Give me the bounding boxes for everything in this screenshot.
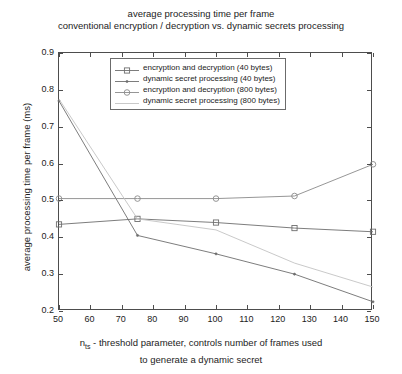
y-axis-tick <box>59 200 63 201</box>
x-axis-tick <box>310 53 311 57</box>
y-axis-tick <box>367 90 371 91</box>
x-axis-tick-label: 60 <box>74 314 104 324</box>
y-axis-tick <box>59 274 63 275</box>
x-axis-tick <box>216 305 217 309</box>
x-axis-tick <box>185 305 186 309</box>
series-marker <box>136 234 138 236</box>
y-axis-title: average processing time per frame (ms) <box>21 57 32 317</box>
y-axis-tick <box>367 274 371 275</box>
y-axis-tick <box>367 53 371 54</box>
x-axis-title-line2: to generate a dynamic secret <box>0 353 402 366</box>
legend-item: dynamic secret processing (800 bytes) <box>114 95 280 106</box>
x-axis-tick-label: 70 <box>106 314 136 324</box>
x-axis-tick-label: 50 <box>43 314 73 324</box>
series-marker <box>293 273 295 275</box>
x-axis-tick <box>342 53 343 57</box>
legend-marker-icon <box>114 95 140 106</box>
legend-item-label: encryption and decryption (40 bytes) <box>143 63 272 72</box>
x-axis-tick-label: 150 <box>357 314 387 324</box>
series-marker <box>370 162 376 168</box>
x-axis-tick <box>59 53 60 57</box>
x-axis-tick <box>122 305 123 309</box>
x-axis-tick <box>90 305 91 309</box>
legend-marker-icon <box>114 62 140 73</box>
x-axis-tick <box>153 53 154 57</box>
x-axis-tick <box>279 305 280 309</box>
y-axis-tick <box>367 200 371 201</box>
x-axis-tick <box>279 53 280 57</box>
chart-subtitle: conventional encryption / decryption vs.… <box>0 20 402 32</box>
x-axis-tick-label: 130 <box>294 314 324 324</box>
x-axis-tick-label: 140 <box>326 314 356 324</box>
x-axis-tick <box>310 305 311 309</box>
x-axis-tick-label: 100 <box>200 314 230 324</box>
x-axis-tick <box>247 53 248 57</box>
y-axis-tick <box>59 127 63 128</box>
series-marker <box>215 253 217 255</box>
legend-item-label: dynamic secret processing (40 bytes) <box>143 74 276 83</box>
x-axis-tick <box>59 305 60 309</box>
series-line <box>59 99 373 287</box>
chart-figure: average processing time per frame conven… <box>0 0 402 374</box>
x-axis-title: nts - threshold parameter, controls numb… <box>0 336 402 366</box>
chart-legend: encryption and decryption (40 bytes)dyna… <box>110 58 286 110</box>
x-axis-tick-label: 80 <box>137 314 167 324</box>
series-marker <box>372 301 374 303</box>
legend-item-label: encryption and decryption (800 bytes) <box>143 85 277 94</box>
legend-item-label: dynamic secret processing (800 bytes) <box>143 96 280 105</box>
data-series <box>59 99 373 287</box>
x-axis-title-text: - threshold parameter, controls number o… <box>90 337 322 348</box>
legend-item: encryption and decryption (40 bytes) <box>114 62 280 73</box>
y-axis-tick <box>59 237 63 238</box>
y-axis-tick <box>367 164 371 165</box>
y-axis-tick <box>59 164 63 165</box>
x-axis-tick-label: 110 <box>231 314 261 324</box>
x-axis-tick <box>342 305 343 309</box>
legend-marker-icon <box>114 84 140 95</box>
y-axis-tick <box>367 311 371 312</box>
x-axis-tick <box>153 305 154 309</box>
x-axis-title-line1: nts - threshold parameter, controls numb… <box>0 336 402 353</box>
y-axis-tick <box>367 127 371 128</box>
chart-title-block: average processing time per frame conven… <box>0 8 402 32</box>
x-axis-tick-label: 120 <box>263 314 293 324</box>
y-axis-tick <box>59 90 63 91</box>
y-axis-tick <box>367 237 371 238</box>
x-axis-tick <box>122 53 123 57</box>
x-axis-tick-label: 90 <box>169 314 199 324</box>
y-axis-tick <box>59 311 63 312</box>
x-axis-tick <box>90 53 91 57</box>
chart-title: average processing time per frame <box>0 8 402 20</box>
legend-marker-icon <box>114 73 140 84</box>
x-axis-tick <box>216 53 217 57</box>
data-series <box>56 216 375 234</box>
x-axis-tick <box>247 305 248 309</box>
y-axis-tick-label: 0.9 <box>20 47 54 57</box>
x-axis-tick <box>185 53 186 57</box>
x-axis-tick <box>373 305 374 309</box>
x-axis-tick <box>373 53 374 57</box>
legend-item: encryption and decryption (800 bytes) <box>114 84 280 95</box>
legend-item: dynamic secret processing (40 bytes) <box>114 73 280 84</box>
